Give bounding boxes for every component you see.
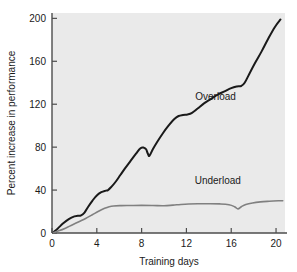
line-chart: 04812162004080120160200 OverloadUnderloa… xyxy=(0,0,297,272)
x-tick-label: 8 xyxy=(139,238,145,249)
x-tick-label: 20 xyxy=(270,238,282,249)
y-axis-title: Percent increase in performance xyxy=(6,50,17,195)
plot-area-background xyxy=(52,13,285,233)
y-tick-label: 40 xyxy=(35,185,47,196)
y-tick-label: 0 xyxy=(40,228,46,239)
x-axis-title: Training days xyxy=(139,256,199,267)
y-tick-label: 120 xyxy=(29,99,46,110)
figure-container: 04812162004080120160200 OverloadUnderloa… xyxy=(0,0,297,272)
x-tick-label: 12 xyxy=(181,238,193,249)
series-label-underload: Underload xyxy=(195,175,241,186)
y-tick-label: 160 xyxy=(29,56,46,67)
series-label-overload: Overload xyxy=(195,91,236,102)
x-tick-label: 0 xyxy=(49,238,55,249)
x-tick-label: 4 xyxy=(94,238,100,249)
x-tick-label: 16 xyxy=(226,238,238,249)
y-tick-label: 200 xyxy=(29,13,46,24)
y-tick-label: 80 xyxy=(35,142,47,153)
